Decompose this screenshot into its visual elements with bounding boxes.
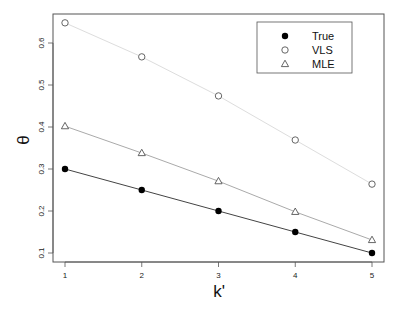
data-point [139, 54, 145, 60]
x-axis: 12345 [63, 262, 375, 280]
legend-label: VLS [312, 44, 333, 56]
y-tick-label: 0.5 [37, 79, 46, 91]
x-tick-label: 1 [63, 271, 68, 280]
data-point [62, 166, 68, 172]
x-axis-label: k' [213, 282, 225, 301]
legend-box [257, 22, 352, 73]
data-point [61, 122, 68, 128]
y-axis-label: θ [14, 135, 33, 144]
y-tick-label: 0.2 [37, 205, 46, 217]
data-point [62, 20, 68, 26]
y-tick-label: 0.4 [37, 121, 46, 133]
data-point [292, 229, 298, 235]
legend-marker-icon [282, 47, 288, 53]
y-axis: 0.10.20.30.40.50.6 [37, 37, 53, 259]
legend-label: True [312, 30, 334, 42]
x-tick-label: 4 [293, 271, 298, 280]
series-mle [61, 122, 375, 242]
line-chart: 0.10.20.30.40.50.6 12345 k' θ TrueVLSMLE [0, 0, 403, 309]
data-point [139, 187, 145, 193]
data-point [369, 250, 375, 256]
x-tick-label: 3 [216, 271, 221, 280]
data-point [215, 208, 221, 214]
data-point [369, 181, 375, 187]
x-tick-label: 2 [140, 271, 145, 280]
y-tick-label: 0.6 [37, 37, 46, 49]
y-tick-label: 0.1 [37, 247, 46, 259]
x-tick-label: 5 [370, 271, 375, 280]
legend-marker-icon [282, 33, 288, 39]
data-point [292, 137, 298, 143]
data-point [215, 93, 221, 99]
legend-label: MLE [312, 58, 335, 70]
legend: TrueVLSMLE [257, 22, 352, 73]
y-tick-label: 0.3 [37, 163, 46, 175]
